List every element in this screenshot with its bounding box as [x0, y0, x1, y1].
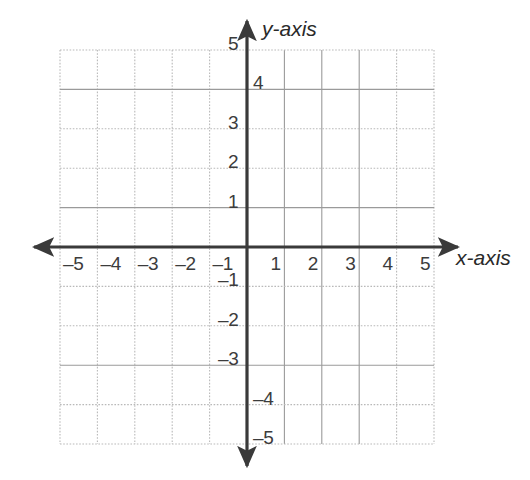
y-tick-label: –5: [253, 428, 274, 447]
x-tick-label: 1: [270, 254, 280, 273]
x-axis-title: x-axis: [456, 247, 511, 268]
y-tick-label: 4: [253, 73, 263, 92]
y-tick-label: 2: [228, 152, 238, 171]
y-tick-label: 3: [228, 113, 238, 132]
y-tick-label: –1: [218, 270, 239, 289]
x-tick-label: –4: [100, 254, 121, 273]
x-tick-label: 4: [383, 254, 393, 273]
x-tick-label: –3: [138, 254, 159, 273]
y-tick-label: 5: [228, 34, 238, 53]
y-tick-label: 1: [228, 192, 238, 211]
x-tick-label: –5: [63, 254, 84, 273]
y-axis-title: y-axis: [262, 18, 317, 39]
coordinate-plane-figure: –5–4–3–2–112345 54321–1–2–3–4–5 y-axis x…: [0, 0, 530, 480]
y-tick-label: –4: [253, 389, 274, 408]
x-tick-label: –2: [175, 254, 196, 273]
y-tick-label: –3: [218, 349, 239, 368]
x-tick-label: 2: [308, 254, 318, 273]
x-tick-label: 3: [345, 254, 355, 273]
y-tick-label: –2: [218, 310, 239, 329]
x-tick-label: 5: [420, 254, 430, 273]
